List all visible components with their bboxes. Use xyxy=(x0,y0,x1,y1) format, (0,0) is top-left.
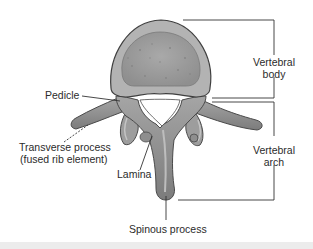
label-vertebral-body-line2: body xyxy=(250,68,298,80)
vertebra-illustration xyxy=(0,0,313,249)
label-spinous-process: Spinous process xyxy=(129,223,207,235)
vertebral-arch-shape xyxy=(116,96,206,200)
label-transverse-process-sub: (fused rib element) xyxy=(20,153,108,165)
bottom-edge xyxy=(0,242,313,249)
label-vertebral-arch-line1: Vertebral xyxy=(250,144,298,156)
vertebra-diagram: Pedicle Transverse process (fused rib el… xyxy=(0,0,313,249)
vertebral-body xyxy=(111,20,211,97)
left-transverse-process xyxy=(71,98,122,129)
pedicle-leader xyxy=(82,96,120,101)
label-lamina: Lamina xyxy=(117,168,151,180)
label-pedicle: Pedicle xyxy=(45,89,79,101)
label-vertebral-body-line1: Vertebral xyxy=(250,56,298,68)
body-bracket-bottom xyxy=(212,77,274,98)
arch-bracket-bottom xyxy=(178,165,274,200)
right-knob xyxy=(190,134,198,142)
label-vertebral-arch-line2: arch xyxy=(250,156,298,168)
label-transverse-process: Transverse process xyxy=(19,141,111,153)
